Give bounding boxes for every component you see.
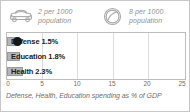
- x-tick-20: 20: [143, 80, 150, 87]
- stat-helmets-label: 8 per 1000 population: [129, 8, 163, 25]
- plot-area: Defense 1.5% Education 1.8% Health 2.3%: [7, 33, 185, 79]
- stats-row: 2 per 1000 population 8 per 1000 populat…: [1, 1, 190, 32]
- chart-caption: Defense, Health, Education spending as %…: [6, 92, 188, 99]
- bar-label-education: Education 1.8%: [11, 51, 65, 62]
- table-row[interactable]: Health 2.3%: [7, 66, 23, 77]
- spending-infographic-widget: 2 per 1000 population 8 per 1000 populat…: [0, 0, 190, 112]
- cursor-marker: [13, 37, 22, 46]
- helmet-icon: [99, 6, 125, 28]
- x-tick-25: 25: [178, 80, 185, 87]
- table-row[interactable]: Education 1.8%: [7, 51, 20, 62]
- x-tick-10: 10: [73, 80, 80, 87]
- stat-vehicles-label: 2 per 1000 population: [38, 8, 72, 25]
- bar-chart-panel: Defense 1.5% Education 1.8% Health 2.3%: [6, 32, 186, 80]
- stat-vehicles: 2 per 1000 population: [1, 6, 96, 28]
- car-icon: [8, 6, 34, 28]
- x-axis: 0 5 10 15 20 25: [6, 80, 186, 90]
- x-tick-5: 5: [40, 80, 44, 87]
- bar-series: Defense 1.5% Education 1.8% Health 2.3%: [7, 33, 185, 79]
- bar-label-health: Health 2.3%: [11, 66, 52, 77]
- x-tick-0: 0: [6, 80, 10, 87]
- x-tick-15: 15: [108, 80, 115, 87]
- stat-helmets: 8 per 1000 population: [96, 6, 190, 28]
